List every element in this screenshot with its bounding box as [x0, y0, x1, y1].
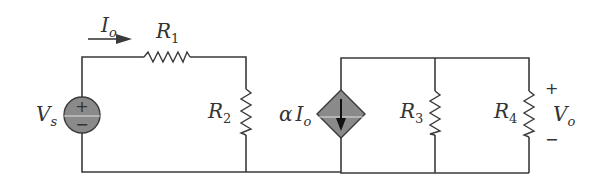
resistor-r3-icon — [430, 91, 440, 135]
vo-plus-sign: + — [545, 79, 558, 98]
vo-minus-sign: − — [545, 130, 558, 149]
circuit-diagram: Io R1 R2 + − Vs αIo R3 R4 + Vo − — [0, 0, 597, 182]
vs-label: Vs — [36, 102, 57, 129]
vs-plus-sign: + — [75, 97, 88, 116]
resistor-r1-icon — [144, 52, 190, 62]
voltage-source-icon: + − — [64, 97, 100, 134]
r4-label: R4 — [493, 99, 517, 126]
r2-label: R2 — [207, 99, 231, 126]
r1-label: R1 — [155, 19, 179, 46]
resistor-r4-icon — [524, 91, 534, 137]
dependent-current-source-icon — [317, 90, 365, 138]
alpha-io-label: αIo — [279, 102, 311, 129]
r3-label: R3 — [399, 99, 423, 126]
vo-label: Vo — [553, 102, 575, 129]
vs-minus-sign: − — [75, 115, 88, 134]
resistor-r2-icon — [241, 89, 251, 135]
io-label: Io — [100, 13, 117, 40]
